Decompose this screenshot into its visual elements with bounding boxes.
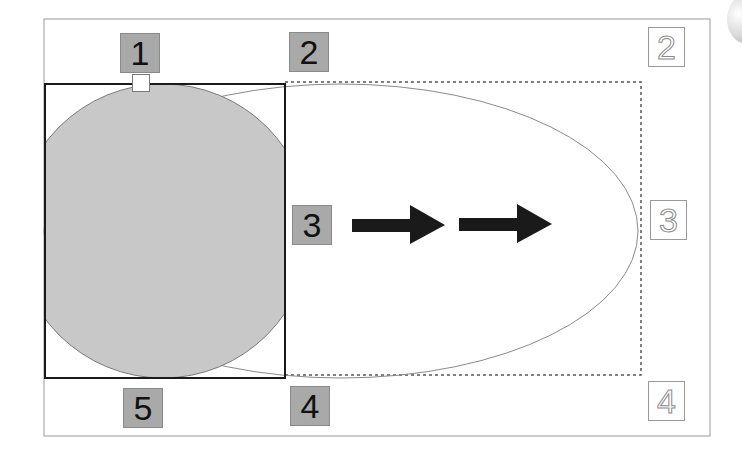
label-3: 3 [292,205,332,245]
label-5: 5 [123,388,163,428]
outline-label-3: 3 [650,200,687,240]
gray-circle [16,84,310,378]
label-4: 4 [290,386,330,426]
outline-label-2: 2 [648,27,685,67]
diagram-canvas [0,0,742,462]
resize-handle-top[interactable] [132,74,150,92]
resize-diagram: 1 2 3 4 5 2 3 4 [0,0,742,462]
right-arrow-icon [352,205,445,244]
label-1: 1 [120,33,160,73]
right-arrow-icon [459,204,552,243]
outline-label-4: 4 [648,381,685,421]
label-2: 2 [289,32,329,72]
